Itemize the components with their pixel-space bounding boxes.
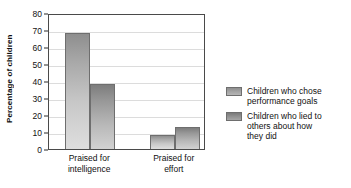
- chart-legend: Children who choseperformance goalsChild…: [226, 86, 349, 146]
- y-axis-tick-label: 70: [33, 27, 42, 35]
- bar-series-1-category-0: [90, 84, 115, 149]
- y-axis-tick-label: 40: [33, 78, 42, 86]
- bar-series-0-category-0: [65, 33, 90, 149]
- legend-label-line: they did: [247, 131, 322, 141]
- legend-label-line: Children who lied to: [247, 111, 322, 121]
- y-axis-tick-label: 0: [37, 146, 42, 154]
- legend-swatch-icon: [226, 87, 242, 96]
- y-axis-tick-label: 60: [33, 44, 42, 52]
- bar-series-0-category-1: [150, 135, 175, 149]
- legend-label: Children who lied toothers about howthey…: [247, 111, 322, 141]
- y-axis-tick-mark: [44, 65, 48, 66]
- bars-layer: [49, 15, 204, 149]
- x-axis-tick-label: Praised foreffort: [134, 153, 214, 174]
- x-axis-tick-label-line: effort: [134, 164, 214, 175]
- y-axis-tick-mark: [44, 82, 48, 83]
- y-axis-tick-label: 50: [33, 61, 42, 69]
- legend-label: Children who choseperformance goals: [247, 86, 322, 106]
- y-axis-tick-mark: [44, 99, 48, 100]
- y-axis-tick-mark: [44, 133, 48, 134]
- y-axis-tick-labels: 01020304050607080: [18, 14, 42, 150]
- y-axis-tick-mark: [44, 116, 48, 117]
- bar-chart-figure: Percentage of children 01020304050607080…: [0, 0, 351, 188]
- x-axis-tick-label-line: intelligence: [49, 164, 129, 175]
- legend-label-line: performance goals: [247, 96, 322, 106]
- y-axis-tick-label: 20: [33, 112, 42, 120]
- legend-entry-0: Children who choseperformance goals: [226, 86, 349, 106]
- legend-swatch-icon: [226, 112, 242, 121]
- y-axis-title: Percentage of children: [2, 18, 16, 140]
- legend-label-line: others about how: [247, 121, 322, 131]
- y-axis-tick-mark: [44, 14, 48, 15]
- legend-label-line: Children who chose: [247, 86, 322, 96]
- plot-area: [48, 14, 205, 150]
- y-axis-tick-mark: [44, 48, 48, 49]
- bar-series-1-category-1: [175, 127, 200, 149]
- y-axis-tick-label: 80: [33, 10, 42, 18]
- y-axis-tick-mark: [44, 31, 48, 32]
- y-axis-tick-label: 10: [33, 129, 42, 137]
- x-axis-tick-label-line: Praised for: [134, 153, 214, 164]
- x-axis-tick-label-line: Praised for: [49, 153, 129, 164]
- y-axis-tick-mark: [44, 150, 48, 151]
- x-axis-tick-label: Praised forintelligence: [49, 153, 129, 174]
- legend-entry-1: Children who lied toothers about howthey…: [226, 111, 349, 141]
- x-axis-tick-labels: Praised forintelligencePraised foreffort: [48, 153, 205, 183]
- y-axis-tick-label: 30: [33, 95, 42, 103]
